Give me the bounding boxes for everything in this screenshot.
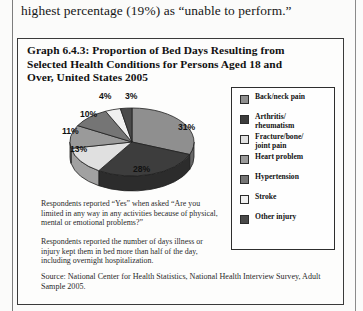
figure-note-1: Respondents reported “Yes” when asked “A…: [41, 199, 221, 228]
legend-item: Hypertension: [240, 173, 332, 190]
page-rule-left: [12, 0, 13, 311]
legend-item-label: Stroke: [255, 193, 276, 202]
page-rule-right: [355, 0, 356, 311]
legend-item-label: Other injury: [255, 213, 296, 222]
legend-item: Heart problem: [240, 153, 332, 170]
legend-item-label: Hypertension: [255, 173, 299, 182]
pie-label-5: 4%: [99, 91, 111, 101]
legend-swatch-icon: [240, 95, 249, 104]
pie-label-6: 3%: [125, 91, 137, 101]
legend-item-label: Fracture/bone/ joint pain: [255, 133, 303, 150]
legend-swatch-icon: [240, 215, 249, 224]
legend-item-label: Back/neck pain: [255, 93, 305, 102]
pie-label-3: 11%: [62, 126, 79, 136]
legend-swatch-icon: [240, 115, 249, 124]
legend-swatch-icon: [240, 195, 249, 204]
legend-item-label: Heart problem: [255, 153, 303, 162]
legend-list: Back/neck painArthritis/ rheumatismFract…: [240, 93, 332, 233]
legend-swatch-icon: [240, 135, 249, 144]
pie-label-1: 28%: [133, 164, 150, 174]
figure-note-2: Respondents reported the number of days …: [41, 237, 221, 266]
pie-label-4: 10%: [80, 109, 97, 119]
page-body-text: highest percentage (19%) as “unable to p…: [21, 2, 346, 19]
legend-item: Other injury: [240, 213, 332, 230]
pie-chart: 31% 28% 13% 11% 10% 4% 3%: [40, 86, 225, 201]
figure-title: Graph 6.4.3: Proportion of Bed Days Resu…: [27, 44, 295, 85]
legend-item: Stroke: [240, 193, 332, 210]
figure-container: Graph 6.4.3: Proportion of Bed Days Resu…: [17, 38, 344, 305]
figure-source: Source: National Center for Health Stati…: [41, 272, 336, 292]
legend-item: Fracture/bone/ joint pain: [240, 133, 332, 150]
legend-item: Back/neck pain: [240, 93, 332, 110]
legend-item-label: Arthritis/ rheumatism: [255, 113, 294, 130]
pie-chart-svg: [40, 86, 225, 201]
chart-legend: Back/neck painArthritis/ rheumatismFract…: [231, 87, 335, 250]
legend-item: Arthritis/ rheumatism: [240, 113, 332, 130]
pie-label-0: 31%: [178, 122, 195, 132]
pie-label-2: 13%: [70, 144, 87, 154]
legend-swatch-icon: [240, 175, 249, 184]
legend-swatch-icon: [240, 155, 249, 164]
